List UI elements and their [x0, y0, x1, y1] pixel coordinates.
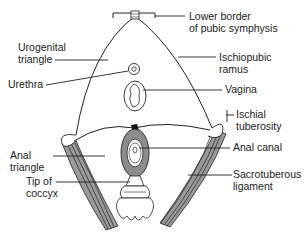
label-sacrotuberous-ligament: Sacrotuberous ligament	[233, 169, 301, 192]
label-anal-triangle: Anal triangle	[10, 150, 44, 173]
pubic-symphysis-bracket	[113, 11, 155, 19]
label-ischial-tuberosity: Ischial tuberosity	[236, 109, 282, 132]
left-sacrotuberous-ligament	[62, 136, 118, 230]
vagina-opening	[124, 81, 146, 111]
urethra-opening	[129, 64, 140, 75]
label-vagina: Vagina	[225, 84, 257, 96]
label-lower-border: Lower border of pubic symphysis	[189, 11, 278, 34]
label-ischiopubic-ramus: Ischiopubic ramus	[219, 52, 272, 75]
right-ischial-tuberosity	[208, 124, 223, 137]
anal-sphincter	[121, 129, 149, 177]
coccyx	[116, 176, 153, 220]
label-urogenital-triangle: Urogenital triangle	[18, 42, 66, 65]
label-urethra: Urethra	[8, 79, 43, 91]
label-anal-canal: Anal canal	[233, 142, 282, 154]
right-sacrotuberous-ligament	[160, 130, 226, 227]
label-tip-of-coccyx: Tip of coccyx	[26, 176, 58, 199]
